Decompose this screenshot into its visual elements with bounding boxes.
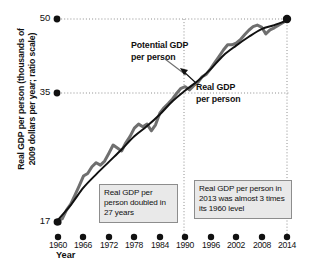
callout-doubled: Real GDP per person doubled in 27 years — [99, 184, 178, 223]
chart-figure: Real GDP per person (thousands of 2009 d… — [0, 0, 316, 273]
startpoint-marker-1960 — [54, 218, 61, 225]
x-tick-dot-1990 — [182, 234, 188, 240]
real-gdp-annotation: Real GDP per person — [196, 82, 240, 105]
endpoint-marker-2014 — [283, 15, 291, 23]
x-tick-dot-1996 — [208, 234, 214, 240]
x-tick-dot-2014 — [284, 234, 290, 240]
x-tick-dot-1966 — [80, 234, 86, 240]
potential-gdp-annotation-line2: per person — [131, 52, 175, 62]
potential-gdp-annotation: Potential GDP per person — [131, 40, 188, 63]
x-tick-dot-2008 — [259, 234, 265, 240]
potential-gdp-annotation-line1: Potential GDP — [131, 40, 188, 50]
y-tick-dot-35 — [54, 90, 61, 97]
x-tick-dot-1960 — [55, 234, 61, 240]
x-tick-dot-1984 — [157, 234, 163, 240]
y-tick-dot-50 — [54, 16, 61, 23]
callout-triple: Real GDP per person in 2013 was almost 3… — [194, 180, 292, 219]
x-tick-dot-1978 — [131, 234, 137, 240]
x-tick-dot-1972 — [106, 234, 112, 240]
real-gdp-annotation-line1: Real GDP — [196, 82, 235, 92]
real-gdp-annotation-line2: per person — [196, 94, 240, 104]
x-tick-dot-2002 — [233, 234, 239, 240]
